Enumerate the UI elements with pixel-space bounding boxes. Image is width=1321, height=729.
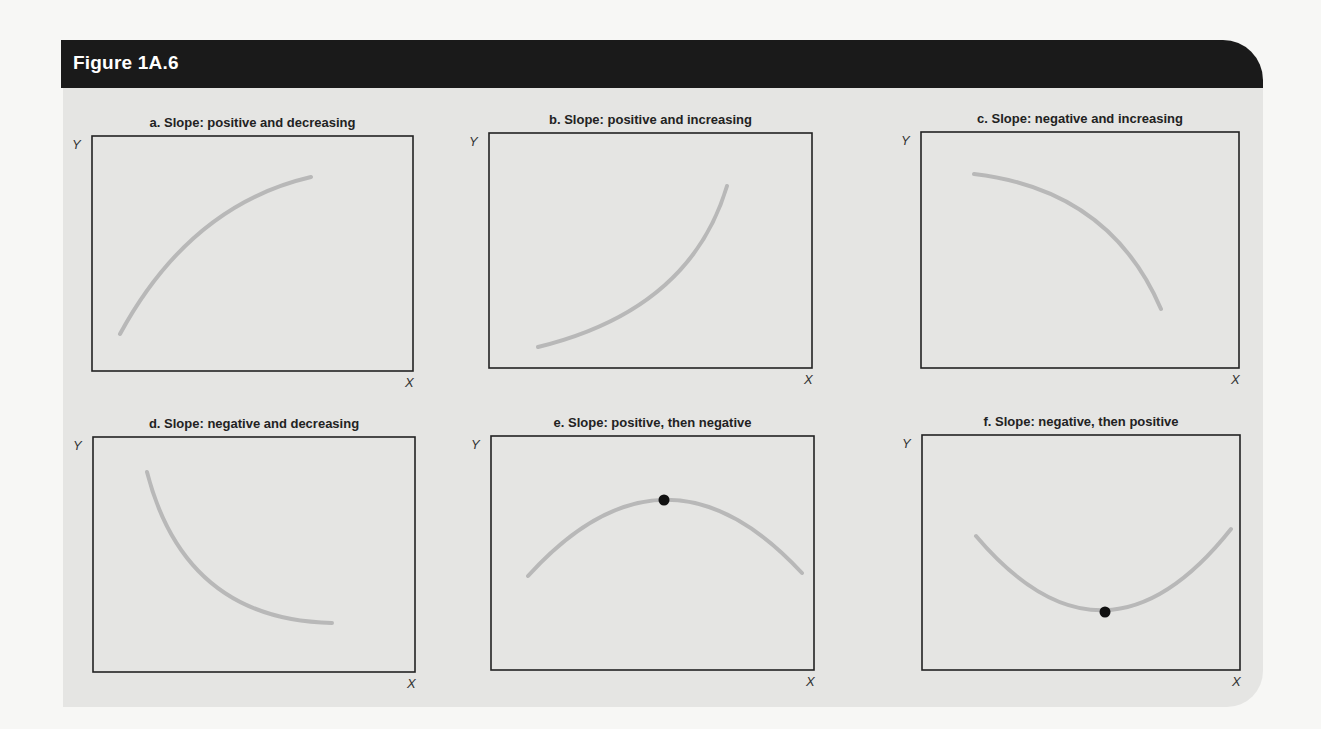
plot-frame <box>92 136 413 371</box>
chart-title: b. Slope: positive and increasing <box>549 112 752 127</box>
x-axis-label: X <box>1231 674 1242 689</box>
y-axis-label: Y <box>73 438 83 453</box>
x-axis-label: X <box>406 676 417 691</box>
x-axis-label: X <box>803 372 814 387</box>
plot-frame <box>921 132 1239 368</box>
curve <box>538 186 727 347</box>
minimum-point <box>1100 607 1111 618</box>
curve <box>120 177 311 334</box>
chart-title: e. Slope: positive, then negative <box>554 415 752 430</box>
y-axis-label: Y <box>902 436 912 451</box>
chart-title: c. Slope: negative and increasing <box>977 111 1183 126</box>
curve <box>147 472 332 623</box>
x-axis-label: X <box>1230 372 1241 387</box>
chart-panel-b: b. Slope: positive and increasingYX <box>469 112 814 387</box>
charts-canvas: a. Slope: positive and decreasingYXb. Sl… <box>0 0 1321 729</box>
chart-panel-e: e. Slope: positive, then negativeYX <box>471 415 816 689</box>
y-axis-label: Y <box>901 133 911 148</box>
plot-frame <box>491 436 814 670</box>
chart-panel-c: c. Slope: negative and increasingYX <box>901 111 1241 387</box>
curve <box>974 174 1161 309</box>
chart-title: f. Slope: negative, then positive <box>983 414 1178 429</box>
x-axis-label: X <box>805 674 816 689</box>
curve <box>528 500 802 576</box>
chart-title: d. Slope: negative and decreasing <box>149 416 359 431</box>
y-axis-label: Y <box>471 437 481 452</box>
x-axis-label: X <box>404 375 415 390</box>
chart-panel-a: a. Slope: positive and decreasingYX <box>72 115 415 390</box>
plot-frame <box>489 133 812 368</box>
chart-title: a. Slope: positive and decreasing <box>150 115 356 130</box>
y-axis-label: Y <box>72 137 82 152</box>
y-axis-label: Y <box>469 134 479 149</box>
plot-frame <box>93 437 415 672</box>
chart-panel-d: d. Slope: negative and decreasingYX <box>73 416 417 691</box>
chart-panel-f: f. Slope: negative, then positiveYX <box>902 414 1242 689</box>
plot-frame <box>922 435 1240 670</box>
curve <box>976 529 1231 610</box>
maximum-point <box>659 495 670 506</box>
